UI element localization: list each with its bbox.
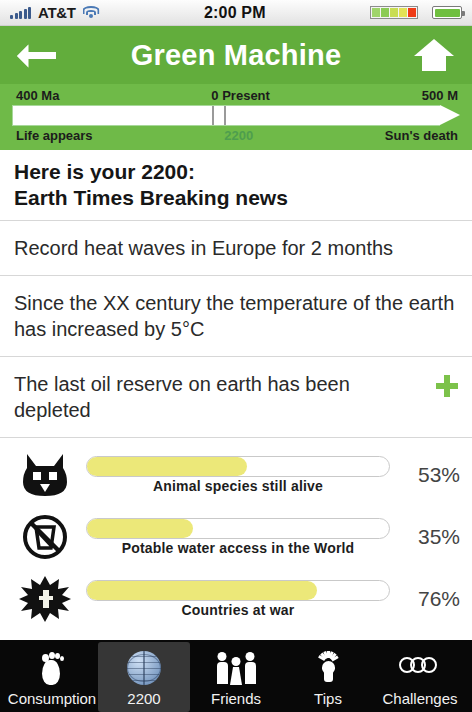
news-item-text: Record heat waves in Europe for 2 months	[14, 235, 458, 261]
news-item[interactable]: The last oil reserve on earth has been d…	[0, 357, 472, 438]
tab-consumption[interactable]: Consumption	[6, 642, 98, 712]
timeline-label-right-top: 500 M	[422, 88, 458, 103]
tab-friends[interactable]: Friends	[190, 642, 282, 712]
headline-line-2: Earth Times Breaking news	[14, 185, 458, 211]
status-bar-right	[370, 6, 462, 19]
stat-row: Potable water access in the World35%	[0, 506, 472, 568]
timeline-bottom-labels: Life appears 2200 Sun's death	[12, 126, 460, 145]
tab-label: Challenges	[382, 690, 457, 707]
timeline-label-mid-top: 0 Present	[211, 88, 270, 103]
lightbulb-icon	[313, 649, 343, 687]
stat-percent-label: 53%	[398, 463, 460, 487]
news-item[interactable]: Record heat waves in Europe for 2 months	[0, 221, 472, 276]
timeline-track-wrapper[interactable]	[12, 105, 460, 126]
carrier-label: AT&T	[38, 4, 76, 21]
phone-screen: AT&T 2:00 PM Green Machine 400 Ma 0 Pres…	[0, 0, 472, 712]
news-item-text: Since the XX century the temperature of …	[14, 290, 458, 342]
stat-percent-label: 76%	[398, 587, 460, 611]
stat-caption: Countries at war	[86, 602, 390, 618]
explosion-icon	[14, 573, 76, 625]
signal-bars-icon	[10, 6, 31, 19]
home-icon[interactable]	[414, 38, 454, 72]
timeline-label-left-bottom: Life appears	[16, 128, 93, 143]
progress-bar-track	[86, 580, 390, 601]
headline-block: Here is your 2200: Earth Times Breaking …	[0, 150, 472, 221]
status-bar-left: AT&T	[10, 4, 100, 21]
stat-bar-group: Animal species still alive	[76, 456, 398, 494]
status-bar: AT&T 2:00 PM	[0, 0, 472, 26]
stat-row: Countries at war76%	[0, 568, 472, 630]
timeline-label-left-top: 400 Ma	[16, 88, 59, 103]
battery-icon	[432, 6, 462, 19]
tab-tips[interactable]: Tips	[282, 642, 374, 712]
headline-line-1: Here is your 2200:	[14, 159, 458, 185]
timeline-track[interactable]	[12, 105, 440, 126]
tab-label: Friends	[211, 690, 261, 707]
nav-bar: Green Machine	[0, 26, 472, 84]
timeline-tick-1[interactable]	[212, 106, 214, 125]
stat-row: Animal species still alive53%	[0, 444, 472, 506]
tab-label: 2200	[127, 690, 160, 707]
stat-bar-group: Potable water access in the World	[76, 518, 398, 556]
no-potable-water-icon	[14, 511, 76, 563]
olympic-rings-icon	[399, 649, 441, 687]
eco-meter-icon	[370, 6, 418, 19]
news-item[interactable]: Since the XX century the temperature of …	[0, 276, 472, 357]
progress-bar-fill	[87, 457, 247, 476]
tab-label: Tips	[314, 690, 342, 707]
timeline-label-right-bottom: Sun's death	[385, 128, 458, 143]
tab-2200[interactable]: 2200	[98, 642, 190, 712]
stat-caption: Potable water access in the World	[86, 540, 390, 556]
progress-bar-track	[86, 456, 390, 477]
globe-icon	[127, 649, 161, 687]
tab-bar: Consumption2200FriendsTipsChallenges	[0, 640, 472, 712]
stat-percent-label: 35%	[398, 525, 460, 549]
progress-bar-fill	[87, 519, 193, 538]
tab-label: Consumption	[8, 690, 96, 707]
timeline-label-mid-bottom: 2200	[224, 128, 253, 143]
news-item-text: The last oil reserve on earth has been d…	[14, 371, 428, 423]
animal-face-icon	[14, 449, 76, 501]
people-icon	[216, 649, 257, 687]
wifi-icon	[83, 6, 100, 19]
footprint-icon	[39, 649, 65, 687]
stat-caption: Animal species still alive	[86, 478, 390, 494]
status-bar-center: 2:00 PM	[100, 4, 370, 22]
page-title: Green Machine	[131, 39, 342, 72]
timeline-slider[interactable]: 400 Ma 0 Present 500 M Life appears 2200…	[0, 84, 472, 150]
news-list: Record heat waves in Europe for 2 months…	[0, 221, 472, 438]
timeline-arrow-end-icon	[440, 105, 460, 126]
timeline-tick-2[interactable]	[224, 106, 226, 125]
stat-bar-group: Countries at war	[76, 580, 398, 618]
timeline-top-labels: 400 Ma 0 Present 500 M	[12, 88, 460, 105]
plus-icon[interactable]	[436, 375, 458, 397]
back-arrow-icon[interactable]	[18, 40, 58, 70]
clock-label: 2:00 PM	[204, 4, 266, 21]
progress-bar-track	[86, 518, 390, 539]
tab-challenges[interactable]: Challenges	[374, 642, 466, 712]
progress-bar-fill	[87, 581, 317, 600]
stats-list: Animal species still alive53%Potable wat…	[0, 438, 472, 634]
